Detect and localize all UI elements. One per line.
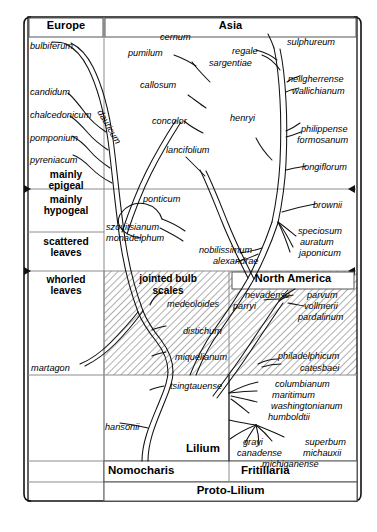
species-label-columbianum: columbianum: [275, 379, 330, 389]
species-label-formosanum: formosanum: [297, 135, 348, 145]
species-label-japonicum: japonicum: [299, 248, 341, 258]
species-label-tsingtauense: tsingtauense: [170, 381, 222, 391]
band-label-proto-lilium: Proto-Lilium: [104, 485, 357, 495]
species-label-pardalinum: pardalinum: [298, 312, 343, 322]
species-label-catesbaei: catesbaei: [300, 363, 339, 373]
species-label-humboldtii: humboldtii: [268, 412, 310, 422]
tier-label-hypogeal: hypogeal: [29, 205, 103, 217]
species-label-bulbiferum: bulbiferum: [30, 41, 73, 51]
species-label-michauxii: michauxii: [303, 448, 341, 458]
species-label-grayi: grayi: [243, 437, 263, 447]
header-europe: Europe: [29, 20, 103, 30]
species-label-wallichianum: wallichianum: [292, 86, 345, 96]
species-label-longiflorum: longiflorum: [302, 162, 347, 172]
species-label-washingtonianum: washingtonianum: [271, 401, 343, 411]
species-label-szovitsianum: szovitsianum: [106, 222, 159, 232]
species-label-miquelianum: miquelianum: [175, 352, 227, 362]
tier-label-mainly: mainly: [29, 169, 103, 181]
species-label-lancifolium: lancifolium: [166, 145, 209, 155]
species-label-alexandrae: alexandrae: [213, 256, 258, 266]
species-label-hansonii: hansonii: [105, 422, 139, 432]
species-label-philadelphicum: philadelphicum: [278, 351, 339, 361]
tier-label-leaves: leaves: [29, 247, 103, 259]
species-label-vollmerii: vollmerii: [304, 301, 338, 311]
species-label-concolor: concolor: [152, 116, 187, 126]
species-label-nobilissimum: nobilissimum: [199, 245, 252, 255]
species-label-nevadense: nevadense: [245, 290, 290, 300]
tier-label-whorled: whorled: [29, 274, 103, 286]
species-label-cernum: cernum: [160, 32, 191, 42]
species-label-callosum: callosum: [140, 80, 176, 90]
species-label-parvum: parvum: [307, 290, 338, 300]
species-label-philippense: philippense: [301, 124, 348, 134]
tier-label-scattered: scattered: [29, 236, 103, 248]
species-label-ponticum: ponticum: [143, 194, 180, 204]
species-label-chalcedonicum: chalcedonicum: [30, 110, 91, 120]
species-label-monadelphum: monadelphum: [106, 233, 164, 243]
species-label-brownii: brownii: [313, 200, 342, 210]
species-label-neilgherrense: neilgherrense: [288, 74, 344, 84]
header-jointed-bulb-scales-line1: jointed bulb: [116, 273, 220, 285]
species-label-maritimum: maritimum: [272, 390, 315, 400]
species-label-canadense: canadense: [237, 448, 282, 458]
tier-label-mainly-2: mainly: [29, 194, 103, 206]
species-label-regale: regale: [232, 46, 258, 56]
species-label-martagon: martagon: [31, 363, 70, 373]
species-label-pomponium: pomponium: [30, 133, 78, 143]
species-label-superbum: superbum: [305, 437, 346, 447]
tier-label-epigeal: epigeal: [29, 180, 103, 192]
species-label-pumilum: pumilum: [128, 48, 163, 58]
header-north-america: North America: [232, 273, 354, 283]
species-label-michiganense: michiganense: [262, 459, 319, 469]
species-label-candidum: candidum: [30, 87, 70, 97]
header-asia: Asia: [105, 20, 356, 30]
species-label-parryi: parryi: [233, 301, 256, 311]
species-label-distichum: distichum: [183, 326, 222, 336]
species-label-medeoloides: medeoloides: [167, 299, 219, 309]
header-jointed-bulb-scales-line2: scales: [116, 285, 220, 297]
band-label-nomocharis: Nomocharis: [108, 465, 174, 475]
band-label-lilium: Lilium: [186, 443, 220, 453]
species-label-pyreniacum: pyreniacum: [30, 155, 78, 165]
species-label-henryi: henryi: [230, 113, 255, 123]
species-label-auratum: auratum: [300, 237, 334, 247]
species-label-sargentiae: sargentiae: [209, 58, 252, 68]
species-label-sulphureum: sulphureum: [287, 37, 335, 47]
tier-label-leaves-2: leaves: [29, 285, 103, 297]
species-label-speciosum: speciosum: [298, 226, 342, 236]
phylogeny-diagram: Europe Asia North America jointed bulb s…: [0, 0, 377, 532]
